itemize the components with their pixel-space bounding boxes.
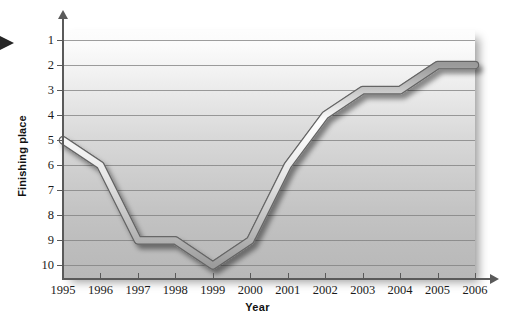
y-tick-mark-5 xyxy=(57,140,64,141)
y-axis-title: Finishing place xyxy=(16,101,28,211)
series-path-group xyxy=(63,65,475,265)
series-line xyxy=(63,65,475,265)
y-tick-label-8: 8 xyxy=(30,208,54,223)
y-tick-label-wrap: 8 xyxy=(30,208,54,222)
x-tick-mark-1999 xyxy=(213,273,214,280)
series-line-chart xyxy=(63,30,475,278)
y-tick-label-3: 3 xyxy=(30,83,54,98)
y-tick-mark-4 xyxy=(57,115,64,116)
y-tick-label-7: 7 xyxy=(30,183,54,198)
x-tick-mark-1996 xyxy=(100,273,101,280)
x-tick-mark-2000 xyxy=(250,273,251,280)
chart-figure: 12345678910 1995199619971998199920002001… xyxy=(0,0,515,320)
series-line-outline xyxy=(63,65,475,265)
x-axis-title: Year xyxy=(0,301,515,313)
y-tick-mark-10 xyxy=(57,265,64,266)
y-tick-label-wrap: 5 xyxy=(30,133,54,147)
y-axis-arrow-icon xyxy=(58,10,68,19)
y-tick-label-wrap: 10 xyxy=(30,258,54,272)
y-tick-label-5: 5 xyxy=(30,133,54,148)
y-tick-mark-9 xyxy=(57,240,64,241)
y-tick-mark-7 xyxy=(57,190,64,191)
x-axis-line xyxy=(62,278,492,280)
y-tick-label-10: 10 xyxy=(30,258,54,273)
y-tick-mark-6 xyxy=(57,165,64,166)
y-tick-mark-2 xyxy=(57,65,64,66)
x-tick-mark-1998 xyxy=(175,273,176,280)
series-line-shadow xyxy=(63,65,475,265)
x-tick-mark-2005 xyxy=(438,273,439,280)
left-pointer-triangle-icon xyxy=(0,36,14,50)
x-tick-mark-2002 xyxy=(325,273,326,280)
y-tick-label-wrap: 2 xyxy=(30,58,54,72)
y-tick-label-wrap: 6 xyxy=(30,158,54,172)
x-tick-mark-1995 xyxy=(63,273,64,280)
y-tick-label-4: 4 xyxy=(30,108,54,123)
x-tick-mark-2001 xyxy=(288,273,289,280)
y-tick-label-wrap: 9 xyxy=(30,233,54,247)
y-tick-label-wrap: 1 xyxy=(30,33,54,47)
x-tick-mark-2004 xyxy=(400,273,401,280)
y-tick-label-wrap: 4 xyxy=(30,108,54,122)
y-tick-mark-1 xyxy=(57,40,64,41)
y-tick-mark-3 xyxy=(57,90,64,91)
x-tick-label-wrap: 2006 xyxy=(453,283,497,298)
y-tick-mark-8 xyxy=(57,215,64,216)
y-tick-label-wrap: 3 xyxy=(30,83,54,97)
y-tick-label-wrap: 7 xyxy=(30,183,54,197)
y-tick-label-9: 9 xyxy=(30,233,54,248)
y-tick-label-1: 1 xyxy=(30,33,54,48)
x-tick-mark-2003 xyxy=(363,273,364,280)
x-tick-mark-2006 xyxy=(475,273,476,280)
y-tick-label-6: 6 xyxy=(30,158,54,173)
x-tick-label-2006: 2006 xyxy=(453,283,497,298)
x-tick-mark-1997 xyxy=(138,273,139,280)
y-tick-label-2: 2 xyxy=(30,58,54,73)
